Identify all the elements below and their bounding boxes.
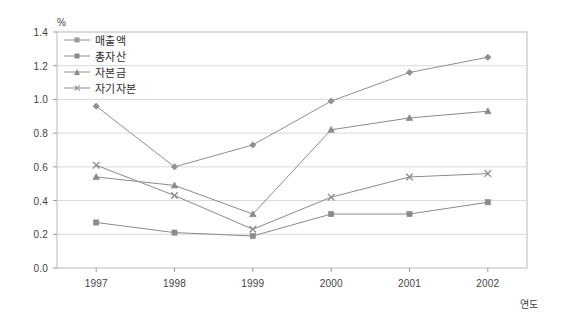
line-chart: % 매출액 총자산 자본금 자기자본 0.00.20.40. — [0, 0, 562, 330]
y-tick-label: 0.6 — [22, 161, 48, 172]
legend-item-label: 자기자본 — [95, 80, 136, 96]
legend-item-label: 자본금 — [95, 64, 126, 80]
x-tick-label: 2000 — [308, 278, 354, 289]
data-point-square — [485, 200, 490, 205]
x-marker-icon — [64, 82, 90, 93]
data-point-square — [94, 220, 99, 225]
data-point-square — [407, 211, 412, 216]
diamond-marker-icon — [64, 34, 90, 45]
legend-item-capital[interactable]: 자본금 — [64, 64, 136, 79]
legend-item-label: 매출액 — [95, 32, 126, 48]
legend-item-equity[interactable]: 자기자본 — [64, 80, 136, 95]
chart-legend: 매출액 총자산 자본금 자기자본 — [64, 32, 136, 95]
x-tick-label: 1997 — [73, 278, 119, 289]
x-tick-label: 1998 — [152, 278, 198, 289]
triangle-marker-icon — [64, 66, 90, 77]
y-tick-label: 1.0 — [22, 94, 48, 105]
y-tick-label: 0.8 — [22, 128, 48, 139]
legend-item-label: 총자산 — [95, 48, 126, 64]
x-tick-label: 1999 — [230, 278, 276, 289]
y-tick-label: 0.2 — [22, 229, 48, 240]
x-tick-label: 2001 — [387, 278, 433, 289]
y-tick-label: 1.4 — [22, 27, 48, 38]
y-tick-label: 0.0 — [22, 263, 48, 274]
data-point-square — [329, 211, 334, 216]
square-marker-icon — [64, 50, 90, 61]
x-axis-title: 연도 — [520, 296, 538, 311]
legend-item-total-assets[interactable]: 총자산 — [64, 48, 136, 63]
data-point-square — [172, 230, 177, 235]
y-tick-label: 0.4 — [22, 195, 48, 206]
y-tick-label: 1.2 — [22, 60, 48, 71]
legend-item-sales[interactable]: 매출액 — [64, 32, 136, 47]
data-point-square — [250, 233, 255, 238]
x-tick-label: 2002 — [465, 278, 511, 289]
